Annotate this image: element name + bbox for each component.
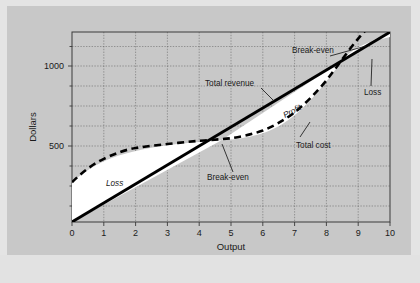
annotation-total-revenue: Total revenue bbox=[205, 79, 255, 88]
x-tick-label-10: 10 bbox=[385, 228, 395, 238]
y-axis-title: Dollars bbox=[27, 112, 38, 142]
annotation-loss-left: Loss bbox=[106, 179, 123, 188]
annotation-loss-right: Loss bbox=[364, 88, 381, 97]
x-tick-label-8: 8 bbox=[324, 228, 329, 238]
x-tick-label-2: 2 bbox=[133, 228, 138, 238]
x-tick-label-5: 5 bbox=[228, 228, 233, 238]
x-tick-label-4: 4 bbox=[197, 228, 202, 238]
x-tick-label-0: 0 bbox=[69, 228, 74, 238]
x-tick-label-3: 3 bbox=[165, 228, 170, 238]
annotation-break-even-upper: Break-even bbox=[292, 46, 334, 55]
x-tick-label-6: 6 bbox=[260, 228, 265, 238]
y-tick-label-1000: 1000 bbox=[44, 61, 64, 71]
y-axis-ticks bbox=[68, 47, 72, 207]
annotation-total-cost: Total cost bbox=[296, 141, 331, 150]
y-tick-label-500: 500 bbox=[49, 141, 64, 151]
x-tick-label-7: 7 bbox=[292, 228, 297, 238]
break-even-chart: 1000 500 0 1 2 3 4 5 6 7 8 9 10 Output D… bbox=[0, 0, 420, 283]
x-tick-label-1: 1 bbox=[101, 228, 106, 238]
figure-plate: 1000 500 0 1 2 3 4 5 6 7 8 9 10 Output D… bbox=[0, 0, 420, 283]
x-axis-title: Output bbox=[217, 241, 246, 252]
x-axis-ticks bbox=[72, 222, 390, 226]
annotation-break-even-lower: Break-even bbox=[207, 173, 249, 182]
x-tick-label-9: 9 bbox=[356, 228, 361, 238]
